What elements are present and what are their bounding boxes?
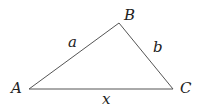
vertex-label-a: A bbox=[9, 79, 22, 97]
triangle-diagram: A B C a b x bbox=[0, 0, 199, 109]
vertex-label-c: C bbox=[180, 79, 192, 97]
triangle-abc bbox=[29, 23, 173, 89]
side-label-ac: x bbox=[102, 90, 111, 108]
side-label-ab: a bbox=[68, 33, 77, 51]
vertex-label-b: B bbox=[123, 6, 135, 24]
side-label-bc: b bbox=[153, 38, 163, 56]
